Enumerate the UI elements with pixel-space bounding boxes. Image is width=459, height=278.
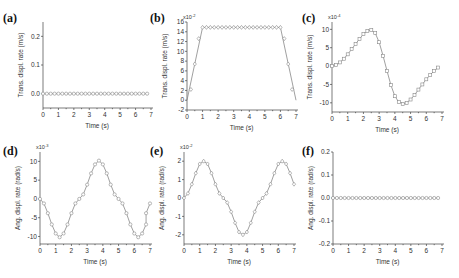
data-point-diamond (245, 230, 248, 234)
y-tick-label: -5 (323, 81, 329, 88)
y-tick-label: 0 (180, 96, 184, 103)
panel-label: (c) (302, 11, 315, 25)
data-point-circle (95, 92, 98, 95)
data-point-square (429, 73, 432, 76)
data-point-square (389, 84, 392, 87)
data-point-diamond (271, 25, 274, 29)
data-point-square (338, 61, 341, 64)
data-point-circle (70, 212, 73, 215)
data-point-circle (89, 172, 92, 175)
data-point-circle (386, 196, 389, 199)
x-tick-label: 5 (263, 113, 267, 120)
data-point-circle (111, 92, 114, 95)
y-tick-label: 10 (322, 26, 330, 33)
y-tick-label: 5 (33, 176, 37, 183)
y-tick-label: 0.0 (31, 90, 40, 97)
data-point-circle (45, 92, 48, 95)
y-tick-label: 8 (180, 57, 184, 64)
x-tick-label: 1 (347, 247, 351, 254)
data-point-square (421, 83, 424, 86)
panel-label: (d) (3, 144, 18, 158)
data-point-circle (122, 92, 125, 95)
data-point-circle (142, 92, 145, 95)
y-tick-label: 0.2 (31, 33, 40, 40)
x-tick-label: 5 (261, 247, 265, 254)
data-point-circle (405, 196, 408, 199)
panel-label: (b) (150, 11, 165, 25)
data-point-circle (130, 92, 133, 95)
data-point-square (378, 41, 381, 44)
data-point-diamond (236, 25, 239, 29)
data-point-circle (107, 92, 110, 95)
data-point-diamond (285, 162, 288, 166)
data-point-circle (121, 202, 124, 205)
data-point-diamond (273, 171, 276, 175)
data-point-circle (417, 196, 420, 199)
data-point-diamond (194, 171, 197, 175)
data-point-circle (335, 196, 338, 199)
data-point-diamond (209, 25, 212, 29)
subplot-e: (e)01234567-2-1012Time (s)Ang. displ. ra… (150, 143, 296, 267)
data-point-circle (148, 202, 151, 205)
data-point-circle (101, 163, 104, 166)
data-point-square (425, 78, 428, 81)
data-point-circle (49, 92, 52, 95)
data-point-diamond (248, 25, 251, 29)
y-tick-label: 0.2 (321, 148, 330, 155)
data-point-diamond (279, 25, 282, 29)
axes-frame (332, 22, 444, 112)
axes-frame (184, 152, 296, 244)
x-tick-label: 3 (85, 247, 89, 254)
x-tick-label: 1 (57, 111, 61, 118)
data-point-circle (86, 183, 89, 186)
data-point-circle (103, 92, 106, 95)
data-point-circle (363, 196, 366, 199)
y-tick-label: 10 (177, 48, 185, 55)
data-point-circle (42, 202, 45, 205)
data-point-diamond (217, 25, 220, 29)
y-axis-label: Ang. displ. rate (rad/s) (307, 166, 315, 230)
data-point-circle (76, 92, 79, 95)
data-point-diamond (232, 25, 235, 29)
data-line (184, 161, 294, 235)
data-point-circle (401, 196, 404, 199)
x-tick-label: 6 (132, 247, 136, 254)
data-point-diamond (210, 171, 213, 175)
y-tick-label: 1 (177, 176, 181, 183)
x-tick-label: 6 (424, 115, 428, 122)
data-point-circle (119, 92, 122, 95)
data-point-square (386, 69, 389, 72)
x-axis-label: Time (s) (375, 126, 399, 134)
data-point-diamond (230, 210, 233, 214)
data-point-diamond (259, 25, 262, 29)
data-point-circle (66, 223, 69, 226)
data-point-circle (126, 92, 129, 95)
data-point-circle (331, 196, 334, 199)
data-point-diamond (249, 221, 252, 225)
data-point-circle (437, 196, 440, 199)
y-axis-label: Trans. displ. rate (m/s) (161, 34, 169, 99)
x-tick-label: 7 (440, 247, 444, 254)
data-point-circle (359, 196, 362, 199)
y-tick-label: 0.1 (321, 171, 330, 178)
data-point-circle (57, 92, 60, 95)
data-point-diamond (237, 230, 240, 234)
y-tick-label: 4 (180, 77, 184, 84)
y-tick-label: 12 (177, 38, 185, 45)
x-axis-label: Time (s) (85, 122, 109, 130)
data-point-circle (129, 223, 132, 226)
x-tick-label: 3 (87, 111, 91, 118)
y-axis-label: Ang. displ. rate (rad/s) (14, 166, 22, 230)
subplot-f: (f)01234567-0.2-0.10.00.10.2Time (s)Ang.… (302, 144, 444, 266)
data-point-circle (65, 92, 68, 95)
y-tick-label: 6 (180, 67, 184, 74)
data-point-diamond (263, 25, 266, 29)
data-point-circle (61, 92, 64, 95)
panel-label: (e) (150, 144, 163, 158)
data-point-square (417, 88, 420, 91)
x-tick-label: 7 (149, 111, 153, 118)
data-point-diamond (281, 159, 284, 163)
data-point-square (409, 98, 412, 101)
x-tick-label: 2 (362, 247, 366, 254)
data-point-circle (398, 196, 401, 199)
